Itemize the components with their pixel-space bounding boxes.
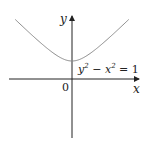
y-axis-label: y [60,13,67,25]
x-axis-label: x [133,83,140,95]
hyperbola-diagram: y x 0 y2 − x2 = 1 [0,0,151,146]
equation-label: y2 − x2 = 1 [78,64,139,75]
origin-label: 0 [62,82,69,93]
